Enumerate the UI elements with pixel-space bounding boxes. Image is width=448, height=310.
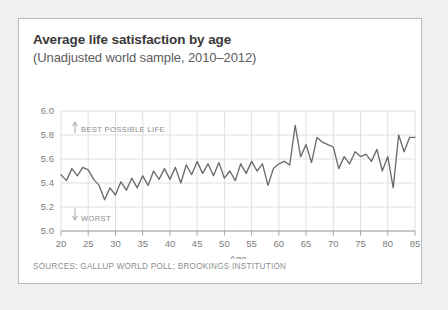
x-axis-tick-label: 45: [192, 238, 203, 249]
x-axis-tick-label: 70: [328, 238, 339, 249]
chart-plot-area: 5.05.25.45.65.86.02025303540455055606570…: [19, 69, 423, 259]
x-axis-tick-label: 40: [165, 238, 176, 249]
x-axis-tick-label: 80: [382, 238, 393, 249]
data-series-line: [61, 125, 415, 199]
chart-sources-note: SOURCES: GALLUP WORLD POLL; BROOKINGS IN…: [33, 262, 286, 271]
chart-card: Average life satisfaction by age (Unadju…: [18, 18, 422, 284]
x-axis-tick-label: 75: [355, 238, 366, 249]
x-axis-tick-label: 25: [83, 238, 94, 249]
annotation-worst: WORST: [81, 214, 111, 223]
y-axis-tick-label: 5.0: [41, 225, 54, 236]
x-axis-tick-label: 85: [410, 238, 421, 249]
line-chart: 5.05.25.45.65.86.02025303540455055606570…: [19, 69, 423, 259]
x-axis-title: Age: [229, 253, 247, 259]
annotation-best-possible-life: BEST POSSIBLE LIFE: [81, 125, 165, 134]
y-axis-tick-label: 5.6: [41, 153, 54, 164]
x-axis-tick-label: 20: [56, 238, 67, 249]
x-axis-tick-label: 50: [219, 238, 230, 249]
y-axis-tick-label: 5.8: [41, 129, 54, 140]
arrow-up-icon: [73, 122, 78, 133]
x-axis-tick-label: 35: [137, 238, 148, 249]
arrow-down-icon: [73, 209, 78, 220]
y-axis-tick-label: 5.2: [41, 201, 54, 212]
x-axis-tick-label: 65: [301, 238, 312, 249]
y-axis-tick-label: 5.4: [41, 177, 54, 188]
x-axis-tick-label: 30: [110, 238, 121, 249]
chart-title: Average life satisfaction by age: [33, 32, 231, 47]
chart-subtitle: (Unadjusted world sample, 2010–2012): [33, 50, 256, 65]
x-axis-tick-label: 60: [274, 238, 285, 249]
y-axis-tick-label: 6.0: [41, 105, 54, 116]
x-axis-tick-label: 55: [246, 238, 257, 249]
